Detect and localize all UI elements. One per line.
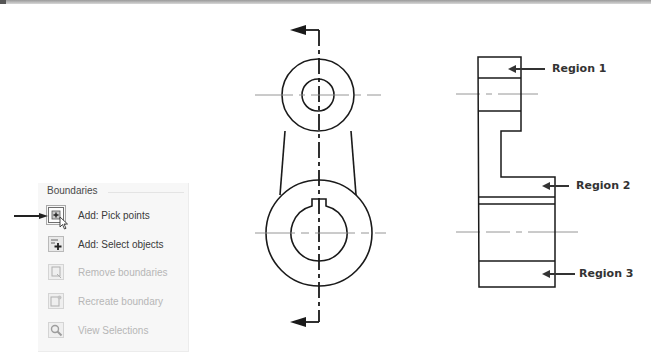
- section-arrow-bottom: [290, 317, 306, 327]
- region-1-label: Region 1: [552, 62, 606, 75]
- add-pick-points-label: Add: Pick points: [78, 210, 150, 221]
- centerlines: [255, 94, 578, 233]
- region-3-label: Region 3: [579, 267, 633, 280]
- panel-title-divider: [108, 192, 184, 193]
- callout-arrow-region-3: [542, 270, 550, 278]
- region-callouts: [508, 65, 575, 278]
- remove-boundaries-button[interactable]: Remove boundaries: [48, 262, 168, 282]
- section-arrow-top: [290, 25, 306, 35]
- boundaries-panel: Boundaries Add: Pick points Add: Select …: [38, 183, 189, 352]
- link-left: [280, 131, 285, 195]
- select-objects-icon: [48, 236, 64, 252]
- region-2-label: Region 2: [576, 179, 630, 192]
- remove-boundaries-label: Remove boundaries: [78, 267, 168, 278]
- recreate-boundary-label: Recreate boundary: [78, 296, 163, 307]
- recreate-boundary-icon: [48, 293, 64, 309]
- recreate-boundary-button[interactable]: Recreate boundary: [48, 291, 163, 311]
- add-pick-points-button[interactable]: Add: Pick points: [48, 205, 150, 225]
- callout-arrow-region-2: [542, 182, 550, 190]
- view-selections-label: View Selections: [78, 325, 148, 336]
- panel-title: Boundaries: [47, 185, 98, 196]
- callout-arrow-region-1: [508, 65, 516, 73]
- section-outline: [478, 57, 555, 287]
- add-select-objects-label: Add: Select objects: [78, 239, 164, 250]
- view-selections-button[interactable]: View Selections: [48, 320, 148, 340]
- view-selections-icon: [48, 322, 64, 338]
- add-select-objects-button[interactable]: Add: Select objects: [48, 234, 164, 254]
- link-right: [351, 131, 356, 195]
- front-view: [266, 25, 372, 327]
- remove-boundaries-icon: [48, 264, 64, 280]
- mouse-cursor-icon: [59, 216, 71, 230]
- pick-points-icon: [48, 207, 64, 223]
- pointer-arrow-icon: [14, 213, 48, 219]
- section-view: [478, 57, 555, 287]
